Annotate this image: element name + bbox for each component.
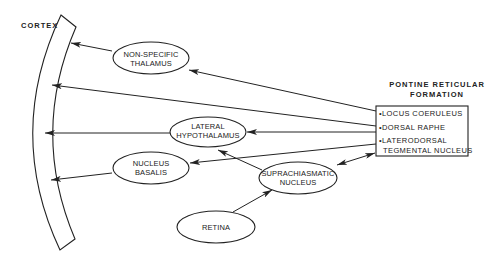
node-label: SUPRACHIASMATIC (261, 169, 335, 178)
arrow-basalis-to-cortex (51, 173, 112, 180)
neural-pathway-diagram: CORTEX NON-SPECIFIC THALAMUS LATERAL HYP… (0, 0, 492, 259)
node-non-specific-thalamus: NON-SPECIFIC THALAMUS (113, 42, 189, 74)
node-retina: RETINA (177, 211, 255, 243)
node-label: NON-SPECIFIC (124, 50, 179, 59)
arrow-scn-to-hypothalamus (218, 150, 262, 170)
node-suprachiasmatic-nucleus: SUPRACHIASMATIC NUCLEUS (259, 162, 337, 194)
node-label: RETINA (202, 223, 230, 232)
pontine-item-dorsal-raphe: •DORSAL RAPHE (379, 123, 445, 132)
arrow-scn-pontine-bidirectional (337, 153, 375, 165)
node-label: HYPOTHALAMUS (176, 131, 239, 140)
cortex-label: CORTEX (21, 21, 58, 30)
pontine-title-line2: FORMATION (410, 90, 464, 99)
pontine-item-tegmental-nucleus: TEGMENTAL NUCLEUS (383, 146, 473, 155)
pontine-reticular-formation: PONTINE RETICULAR FORMATION •LOCUS COERU… (376, 80, 485, 156)
node-lateral-hypothalamus: LATERAL HYPOTHALAMUS (170, 117, 246, 147)
pontine-title-line1: PONTINE RETICULAR (389, 80, 485, 89)
node-label: NUCLEUS (280, 178, 317, 187)
node-label: BASALIS (135, 168, 167, 177)
node-nucleus-basalis: NUCLEUS BASALIS (113, 152, 189, 184)
pontine-item-laterodorsal: •LATERODORSAL (379, 136, 447, 145)
pontine-item-locus-coeruleus: •LOCUS COERULEUS (379, 109, 463, 118)
node-label: NUCLEUS (133, 159, 170, 168)
arrow-thalamus-to-cortex (71, 43, 112, 51)
node-label: LATERAL (191, 122, 225, 131)
node-label: THALAMUS (130, 59, 172, 68)
arrow-retina-to-scn (233, 190, 272, 212)
arrow-pontine-to-thalamus (189, 70, 376, 111)
